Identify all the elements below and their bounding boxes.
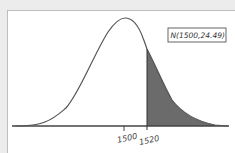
- distribution-annotation: N(1500,24.49): [171, 31, 225, 40]
- tick-label-1520: 1520: [138, 134, 160, 147]
- tick-label-1500: 1500: [116, 132, 138, 145]
- normal-distribution-chart: 1500 1520 N(1500,24.49): [0, 0, 235, 153]
